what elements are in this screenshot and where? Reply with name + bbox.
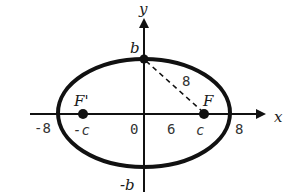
tick-label-neg-8: -8 xyxy=(34,120,51,136)
top-vertex-label: b xyxy=(130,39,140,57)
tick-label-8: 8 xyxy=(235,121,243,137)
diagram-canvas: y x b -b F' F 8 -8 -c 0 6 c 8 xyxy=(0,0,295,196)
tick-label-6: 6 xyxy=(167,121,175,137)
segment-length-label: 8 xyxy=(182,73,190,89)
top-vertex-point xyxy=(140,55,149,64)
ellipse-diagram: y x b -b F' F 8 -8 -c 0 6 c 8 xyxy=(0,0,295,196)
left-focus-label: F' xyxy=(73,92,89,110)
y-axis-label: y xyxy=(138,0,148,18)
tick-label-origin: 0 xyxy=(130,121,138,137)
x-axis-label: x xyxy=(274,108,283,126)
tick-label-c: c xyxy=(196,122,204,138)
tick-label-neg-c: -c xyxy=(73,122,90,138)
bottom-vertex-label: -b xyxy=(120,176,135,194)
left-focus-point xyxy=(78,109,88,119)
right-focus-point xyxy=(199,109,209,119)
right-focus-label: F xyxy=(202,92,214,110)
